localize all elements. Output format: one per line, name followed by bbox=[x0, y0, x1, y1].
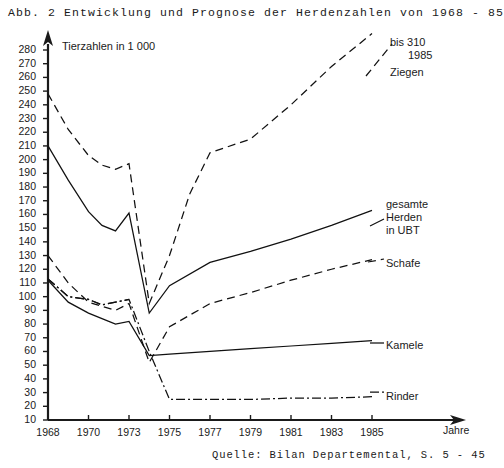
series-line-schafe bbox=[48, 256, 372, 363]
leader-gesamte bbox=[370, 219, 384, 226]
y-tick-label: 110 bbox=[10, 276, 36, 288]
x-tick-label: 1985 bbox=[352, 426, 392, 438]
y-tick-label: 220 bbox=[10, 125, 36, 137]
y-tick-label: 40 bbox=[10, 372, 36, 384]
annotation-gesamte-3: in UBT bbox=[386, 224, 420, 237]
y-tick-label: 180 bbox=[10, 180, 36, 192]
series-line-rinder-upper-branch bbox=[48, 279, 129, 305]
data-series-group bbox=[48, 34, 392, 400]
y-tick-label: 190 bbox=[10, 166, 36, 178]
y-tick-label: 50 bbox=[10, 358, 36, 370]
y-tick-label: 280 bbox=[10, 43, 36, 55]
y-tick-label: 250 bbox=[10, 84, 36, 96]
y-tick-label: 30 bbox=[10, 386, 36, 398]
y-axis-arrow bbox=[43, 30, 53, 46]
y-tick-label: 60 bbox=[10, 344, 36, 356]
series-line-gesamte-herden-in-ubt bbox=[48, 146, 372, 313]
series-line-rinder bbox=[48, 279, 372, 400]
leader-ziegen bbox=[366, 44, 392, 76]
y-tick-label: 140 bbox=[10, 235, 36, 247]
y-tick-label: 130 bbox=[10, 249, 36, 261]
series-line-kamele bbox=[48, 280, 372, 355]
y-tick-label: 20 bbox=[10, 399, 36, 411]
annotation-rinder-label: Rinder bbox=[386, 390, 418, 403]
annotation-schafe-label: Schafe bbox=[386, 257, 420, 270]
y-tick-label: 240 bbox=[10, 98, 36, 110]
x-tick-label: 1970 bbox=[69, 426, 109, 438]
x-tick-label: 1979 bbox=[231, 426, 271, 438]
y-tick-label: 90 bbox=[10, 303, 36, 315]
annotation-gesamte-2: Herden bbox=[386, 211, 422, 224]
x-tick-label: 1973 bbox=[109, 426, 149, 438]
y-tick-label: 200 bbox=[10, 153, 36, 165]
y-tick-label: 120 bbox=[10, 262, 36, 274]
annotation-kamele-label: Kamele bbox=[386, 339, 423, 352]
y-tick-label: 260 bbox=[10, 70, 36, 82]
y-tick-label: 170 bbox=[10, 194, 36, 206]
y-tick-label: 70 bbox=[10, 331, 36, 343]
x-tick-label: 1968 bbox=[28, 426, 68, 438]
y-tick-label: 230 bbox=[10, 112, 36, 124]
x-tick-label: 1983 bbox=[312, 426, 352, 438]
y-tick-label: 270 bbox=[10, 57, 36, 69]
x-tick-label: 1977 bbox=[190, 426, 230, 438]
y-tick-label: 210 bbox=[10, 139, 36, 151]
x-tick-label: 1981 bbox=[271, 426, 311, 438]
annotation-ziegen-label: Ziegen bbox=[390, 66, 424, 79]
y-tick-label: 160 bbox=[10, 207, 36, 219]
x-tick-label: 1975 bbox=[150, 426, 190, 438]
annotation-ziegen-note-1: bis 310 bbox=[390, 36, 425, 49]
y-tick-label: 10 bbox=[10, 413, 36, 425]
y-tick-label: 150 bbox=[10, 221, 36, 233]
annotation-ziegen-note-2: 1985 bbox=[408, 49, 432, 62]
annotation-gesamte-1: gesamte bbox=[386, 198, 428, 211]
y-tick-label: 100 bbox=[10, 290, 36, 302]
y-tick-label: 80 bbox=[10, 317, 36, 329]
